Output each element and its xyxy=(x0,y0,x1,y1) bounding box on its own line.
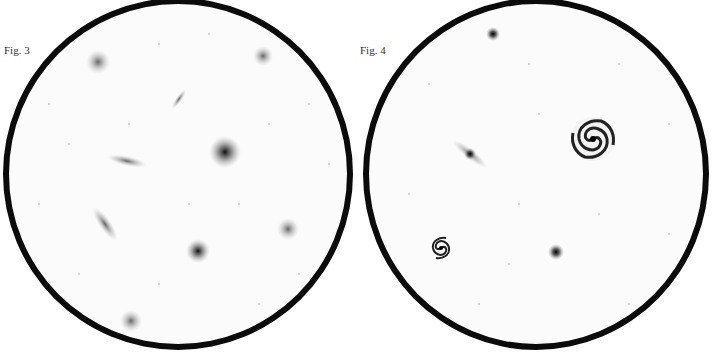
deep-sky-objects-plate-3 xyxy=(9,4,353,350)
star-cluster-icon xyxy=(486,27,500,41)
spiral-galaxy-icon xyxy=(433,238,449,258)
cluster-icon xyxy=(253,46,273,66)
telescope-field-plate-3 xyxy=(3,0,353,350)
telescope-field-plate-4 xyxy=(363,0,709,350)
edge-on-galaxy-icon xyxy=(89,204,122,244)
cluster-icon xyxy=(277,218,299,240)
spiral-galaxy-icon xyxy=(571,117,615,161)
edge-on-galaxy-icon xyxy=(449,136,491,173)
deep-sky-objects-plate-4 xyxy=(369,4,709,350)
edge-on-galaxy-icon xyxy=(106,152,147,170)
elliptical-galaxy-icon xyxy=(186,239,210,263)
star-cluster-icon xyxy=(548,244,564,260)
figure-3: Fig. 3 xyxy=(0,0,357,357)
cluster-icon xyxy=(86,50,110,74)
figure-4: Fig. 4 xyxy=(357,0,715,357)
cluster-icon xyxy=(120,310,142,332)
elliptical-galaxy-icon xyxy=(209,136,241,168)
edge-on-galaxy-icon xyxy=(170,87,189,110)
